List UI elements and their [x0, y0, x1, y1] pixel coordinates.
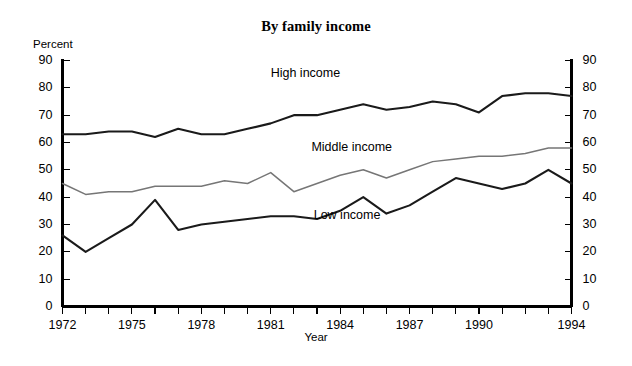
chart-plot-area	[0, 0, 632, 366]
series-label-middle-income: Middle income	[311, 141, 392, 154]
y-axis-left-tick-label: 50	[27, 163, 53, 176]
x-axis-tick-label: 1987	[387, 319, 433, 332]
y-axis-left-tick-label: 60	[27, 136, 53, 149]
y-axis-left-tick-label: 10	[27, 273, 53, 286]
x-axis-tick-label: 1975	[109, 319, 155, 332]
x-axis-tick-label: 1981	[248, 319, 294, 332]
y-axis-left-tick-label: 70	[27, 109, 53, 122]
x-axis-title: Year	[0, 331, 632, 343]
y-axis-left-tick-label: 0	[27, 300, 53, 313]
y-axis-right-tick-label: 10	[583, 273, 609, 286]
y-axis-right-tick-label: 30	[583, 218, 609, 231]
x-axis-tick-label: 1984	[317, 319, 363, 332]
y-axis-left-tick-label: 20	[27, 245, 53, 258]
axes	[63, 59, 572, 314]
x-axis-tick-label: 1978	[178, 319, 224, 332]
y-axis-right-tick-label: 80	[583, 81, 609, 94]
y-axis-right-tick-label: 70	[583, 109, 609, 122]
y-axis-left-tick-label: 80	[27, 81, 53, 94]
data-series	[63, 93, 572, 252]
series-line-high-income	[63, 93, 572, 137]
y-axis-right-tick-label: 20	[583, 245, 609, 258]
series-label-low-income: Low income	[314, 209, 381, 222]
y-axis-right-tick-label: 60	[583, 136, 609, 149]
x-axis-tick-label: 1994	[549, 319, 595, 332]
y-axis-right-tick-label: 50	[583, 163, 609, 176]
y-axis-right-tick-label: 0	[583, 300, 609, 313]
x-axis-tick-label: 1972	[40, 319, 86, 332]
y-axis-right-tick-label: 90	[583, 54, 609, 67]
chart-container: By family income Percent 010203040506070…	[0, 0, 632, 366]
series-label-high-income: High income	[271, 67, 340, 80]
y-axis-right-tick-label: 40	[583, 191, 609, 204]
y-axis-left-tick-label: 30	[27, 218, 53, 231]
y-axis-left-tick-label: 90	[27, 54, 53, 67]
x-axis-tick-label: 1990	[456, 319, 502, 332]
y-axis-left-tick-label: 40	[27, 191, 53, 204]
